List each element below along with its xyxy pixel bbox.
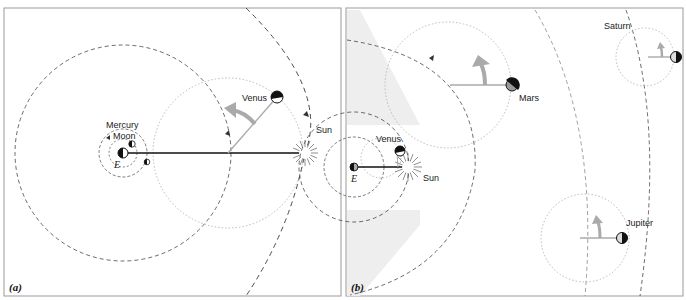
label-mars: Mars [519,93,539,103]
ptolemaic-diagram: Mercury Moon E Venus Sun (a) [0,0,686,300]
direction-arrow-icon [106,135,110,140]
label-venus: Venus [242,93,268,103]
venus-b [395,146,405,156]
panel-b: Venus Sun E Mars Jupiter Saturn (b) [299,10,682,296]
saturn-motion-arrow [661,47,662,57]
label-mercury: Mercury [106,120,139,130]
mercury-a [144,159,150,165]
venus-a [271,91,283,103]
label-moon: Moon [113,131,136,141]
jupiter-deferent [535,10,588,296]
label-sun-b: Sun [423,173,439,183]
panel-a-label: (a) [9,281,22,294]
jupiter-motion-arrow [598,222,600,238]
label-jupiter: Jupiter [626,218,653,228]
mars-motion-arrow [481,64,485,85]
label-earth: E [113,159,120,170]
label-saturn: Saturn [604,21,631,31]
mars [506,77,520,91]
label-venus-b: Venus [376,134,402,144]
saturn-deferent [626,10,650,296]
earth-b [350,163,358,171]
saturn-arrowhead-icon [657,42,665,49]
moon-a [129,141,135,147]
venus-arrowhead-icon [224,102,236,118]
direction-arrow-icon [429,55,434,61]
jupiter-arrowhead-icon [592,215,603,224]
panel-b-label: (b) [351,281,364,294]
earth-a [118,148,128,158]
label-earth-b: E [350,173,357,184]
mars-arrowhead-icon [472,55,490,67]
direction-arrow-icon [303,111,309,117]
jupiter [617,233,628,244]
sun-a-icon [292,140,318,166]
label-sun: Sun [316,125,332,135]
panel-a: Mercury Moon E Venus Sun (a) [9,8,332,296]
panel-a-frame [4,8,341,296]
sun-b-icon [394,153,422,181]
direction-arrow-icon [225,130,230,136]
saturn [671,52,682,63]
